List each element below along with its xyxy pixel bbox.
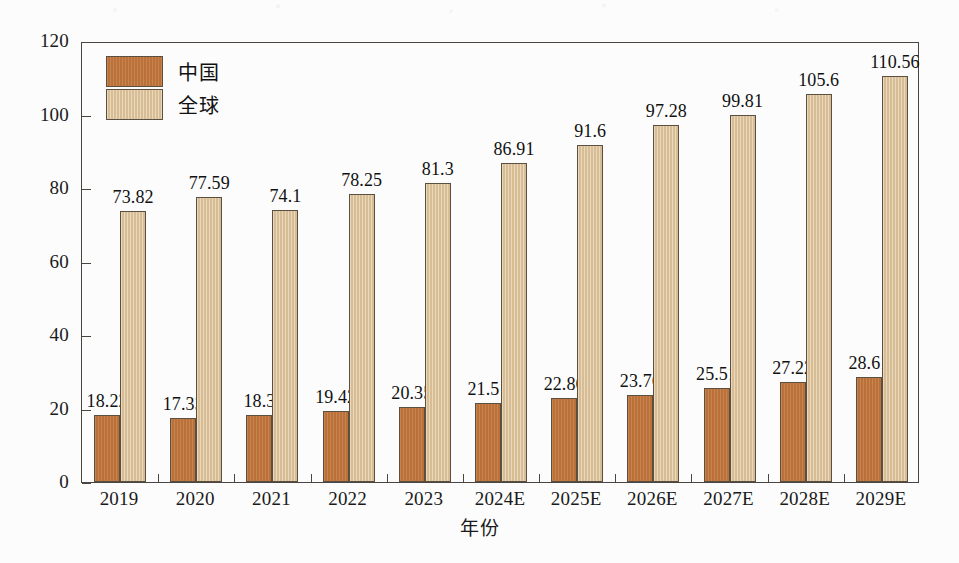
x-axis-label-2027E: 2027E: [690, 488, 766, 510]
bar-value-label: 105.6: [785, 70, 853, 91]
bar-china-2027E[interactable]: [704, 388, 730, 482]
bar-global-2025E[interactable]: [577, 145, 603, 482]
x-axis-tick: [615, 474, 616, 482]
bar-value-label: 73.82: [99, 187, 167, 208]
x-axis-label-2025E: 2025E: [538, 488, 614, 510]
legend-swatch-china-icon: [106, 56, 163, 87]
x-axis-label-2022: 2022: [310, 488, 386, 510]
x-axis-title-text: 年份: [460, 517, 500, 539]
x-axis-label-2019: 2019: [81, 488, 157, 510]
bar-china-2022[interactable]: [323, 411, 349, 482]
chart-legend: 中国 全球: [106, 55, 220, 121]
bar-global-2022[interactable]: [349, 194, 375, 482]
bar-value-label: 86.91: [480, 139, 548, 160]
x-axis-label-2023: 2023: [386, 488, 462, 510]
bar-value-label: 81.3: [404, 159, 472, 180]
y-axis-label: 100: [0, 104, 69, 126]
bar-china-2023[interactable]: [399, 407, 425, 482]
bar-china-2025E[interactable]: [551, 398, 577, 482]
x-axis-tick: [234, 474, 235, 482]
y-axis-label: 80: [0, 177, 69, 199]
x-axis-tick: [463, 474, 464, 482]
y-axis-label: 120: [0, 30, 69, 52]
bar-value-label: 97.28: [632, 101, 700, 122]
bar-value-label: 74.1: [251, 186, 319, 207]
x-axis-tick: [844, 474, 845, 482]
bar-global-2027E[interactable]: [730, 115, 756, 482]
y-axis-tick: [82, 116, 91, 117]
bar-global-2024E[interactable]: [501, 163, 527, 482]
y-axis-tick: [82, 42, 91, 43]
x-axis-tick: [311, 474, 312, 482]
bar-china-2021[interactable]: [246, 415, 272, 482]
x-axis-label-2021: 2021: [233, 488, 309, 510]
bar-value-label: 78.25: [328, 170, 396, 191]
bar-global-2028E[interactable]: [806, 94, 832, 482]
x-axis-label-2020: 2020: [157, 488, 233, 510]
legend-item-global[interactable]: 全球: [106, 88, 220, 121]
bar-china-2029E[interactable]: [856, 377, 882, 482]
y-axis-tick: [82, 189, 91, 190]
bar-china-2026E[interactable]: [627, 395, 653, 482]
bar-value-label: 99.81: [709, 91, 777, 112]
bar-value-label: 110.56: [861, 52, 929, 73]
legend-item-china[interactable]: 中国: [106, 55, 220, 88]
y-axis-label: 40: [0, 324, 69, 346]
bar-global-2019[interactable]: [120, 211, 146, 482]
y-axis-tick: [82, 263, 91, 264]
x-axis-label-2029E: 2029E: [843, 488, 919, 510]
y-axis-tick: [82, 483, 91, 484]
bar-china-2020[interactable]: [170, 418, 196, 482]
scan-noise-artifact: [0, 0, 959, 16]
x-axis-tick: [768, 474, 769, 482]
x-axis-tick: [158, 474, 159, 482]
y-axis-label: 0: [0, 471, 69, 493]
y-axis-label: 60: [0, 251, 69, 273]
x-axis-title: 年份: [0, 513, 959, 540]
bar-china-2028E[interactable]: [780, 382, 806, 482]
x-axis-tick: [691, 474, 692, 482]
bar-global-2026E[interactable]: [653, 125, 679, 483]
x-axis-tick: [387, 474, 388, 482]
bar-value-label: 91.6: [556, 121, 624, 142]
bar-global-2021[interactable]: [272, 210, 298, 482]
x-axis-label-2028E: 2028E: [767, 488, 843, 510]
bar-value-label: 77.59: [175, 173, 243, 194]
legend-swatch-global-icon: [106, 89, 163, 120]
plot-frame: 18.2273.8217.3377.5918.374.119.4278.2520…: [81, 42, 919, 483]
legend-label-china: 中国: [178, 57, 220, 86]
bar-global-2029E[interactable]: [882, 76, 908, 482]
x-axis-label-2026E: 2026E: [614, 488, 690, 510]
bar-global-2023[interactable]: [425, 183, 451, 482]
bar-global-2020[interactable]: [196, 197, 222, 482]
chart-page: TNT产量（×10⁴ t） 18.2273.8217.3377.5918.374…: [0, 0, 959, 563]
legend-label-global: 全球: [178, 90, 220, 119]
bar-china-2019[interactable]: [94, 415, 120, 482]
bar-china-2024E[interactable]: [475, 403, 501, 482]
y-axis-label: 20: [0, 398, 69, 420]
x-axis-label-2024E: 2024E: [462, 488, 538, 510]
x-axis-tick: [539, 474, 540, 482]
y-axis-tick: [82, 336, 91, 337]
